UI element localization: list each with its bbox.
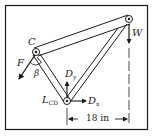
label-c: C	[28, 37, 36, 47]
label-dy-sub: y	[73, 73, 76, 80]
label-lcd: LCD	[42, 95, 58, 106]
label-lcd-main: L	[42, 94, 49, 105]
pin-c	[33, 49, 40, 56]
label-dy-main: D	[65, 68, 73, 79]
pin-top-right	[126, 16, 133, 23]
label-w: W	[132, 28, 142, 38]
pin-d	[64, 98, 71, 105]
dimension-label: 18 in	[86, 114, 109, 123]
label-dx-sub: x	[96, 100, 99, 107]
frame-diagram	[0, 0, 153, 137]
member-c-to-top	[34, 15, 130, 56]
angle-beta-arc	[30, 62, 42, 65]
label-f: F	[17, 58, 24, 68]
label-beta: β	[34, 69, 39, 78]
label-dy: Dy	[65, 69, 76, 80]
label-dx: Dx	[88, 96, 99, 107]
label-dx-main: D	[88, 95, 96, 106]
label-lcd-sub: CD	[49, 99, 58, 106]
